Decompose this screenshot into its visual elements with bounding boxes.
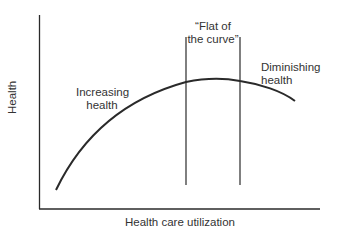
increasing-health-label: Increasing health [76, 86, 128, 112]
flat-of-curve-label: “Flat of the curve” [186, 20, 240, 46]
y-axis-label: Health [6, 81, 18, 114]
increasing-label-line1: Increasing [76, 86, 128, 99]
flat-label-line2: the curve” [186, 33, 240, 46]
increasing-label-line2: health [76, 99, 128, 112]
diagram-canvas [0, 0, 337, 232]
diminishing-label-line1: Diminishing [261, 61, 320, 74]
diminishing-label-line2: health [261, 74, 320, 87]
flat-label-line1: “Flat of [186, 20, 240, 33]
diminishing-health-label: Diminishing health [261, 61, 320, 87]
x-axis-label: Health care utilization [120, 216, 240, 229]
